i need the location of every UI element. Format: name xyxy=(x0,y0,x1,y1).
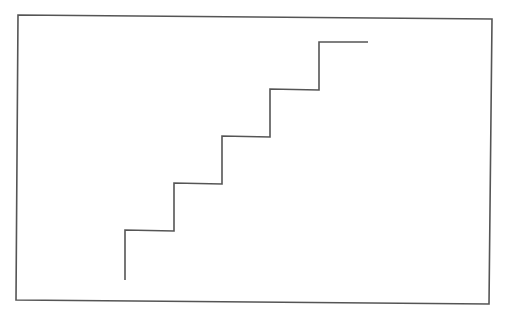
rectangle-frame xyxy=(16,15,492,304)
diagram-canvas xyxy=(0,0,505,319)
staircase-line xyxy=(125,42,368,280)
